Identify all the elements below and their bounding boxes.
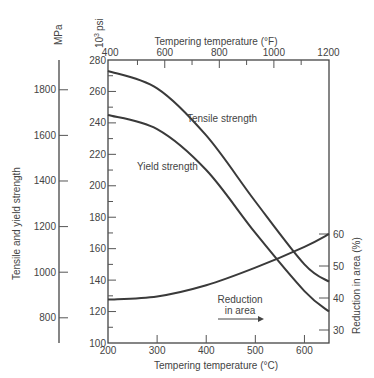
svg-text:220: 220 xyxy=(89,149,106,160)
svg-text:1000: 1000 xyxy=(34,267,57,278)
svg-text:1200: 1200 xyxy=(34,221,57,232)
svg-text:180: 180 xyxy=(89,212,106,223)
svg-text:60: 60 xyxy=(333,229,345,240)
axis-ticks: 2003004005006004006008001000120010012014… xyxy=(89,47,344,356)
svg-text:50: 50 xyxy=(333,261,345,272)
svg-text:500: 500 xyxy=(247,345,264,356)
svg-text:1400: 1400 xyxy=(34,175,57,186)
svg-text:1000: 1000 xyxy=(263,47,286,58)
right-axis-title: Reduction in area (%) xyxy=(351,237,362,334)
svg-text:120: 120 xyxy=(89,306,106,317)
svg-text:600: 600 xyxy=(296,345,313,356)
svg-text:800: 800 xyxy=(39,312,56,323)
svg-text:240: 240 xyxy=(89,117,106,128)
svg-text:1600: 1600 xyxy=(34,130,57,141)
reduction-label-1: Reduction xyxy=(217,294,262,305)
reduction-label-2: in area xyxy=(225,305,256,316)
svg-text:160: 160 xyxy=(89,243,106,254)
psi-axis-unit: 103psi xyxy=(93,18,105,48)
svg-text:30: 30 xyxy=(333,325,345,336)
svg-text:100: 100 xyxy=(89,338,106,349)
svg-text:600: 600 xyxy=(156,47,173,58)
svg-text:260: 260 xyxy=(89,86,106,97)
top-axis-title: Tempering temperature (°F) xyxy=(155,36,278,47)
svg-text:300: 300 xyxy=(149,345,166,356)
svg-text:800: 800 xyxy=(211,47,228,58)
mpa-axis-unit: MPa xyxy=(53,24,64,45)
yield-label: Yield strength xyxy=(137,161,198,172)
svg-text:1200: 1200 xyxy=(317,47,340,58)
bottom-axis-title: Tempering temperature (°C) xyxy=(154,360,278,371)
svg-text:200: 200 xyxy=(89,180,106,191)
svg-text:1800: 1800 xyxy=(34,84,57,95)
reduction-in-area-curve xyxy=(108,234,329,300)
tensile-label: Tensile strength xyxy=(187,113,257,124)
mpa-axis: MPa 80010001200140016001800 xyxy=(34,24,68,343)
curves xyxy=(108,71,329,312)
svg-text:400: 400 xyxy=(198,345,215,356)
svg-text:280: 280 xyxy=(89,55,106,66)
svg-text:40: 40 xyxy=(333,293,345,304)
svg-text:140: 140 xyxy=(89,275,106,286)
arrow-icon xyxy=(218,316,264,322)
left-axis-title: Tensile and yield strength xyxy=(11,167,22,280)
chart: MPa 80010001200140016001800 Tensile and … xyxy=(0,0,374,378)
